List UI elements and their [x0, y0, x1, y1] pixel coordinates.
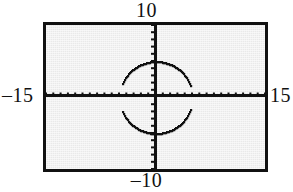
- calculator-viewport: [43, 22, 268, 172]
- plot-area: [46, 25, 265, 169]
- graphing-calculator-screenshot: 10 –15 15 –10: [0, 0, 293, 192]
- x-max-label: 15: [270, 85, 291, 105]
- x-min-label: –15: [2, 85, 34, 105]
- axes-group: [46, 25, 265, 169]
- y-max-label: 10: [0, 0, 293, 20]
- y-min-label: –10: [0, 170, 293, 190]
- curve-upper-semicircle: [122, 61, 192, 87]
- curve-lower-semicircle: [122, 109, 192, 135]
